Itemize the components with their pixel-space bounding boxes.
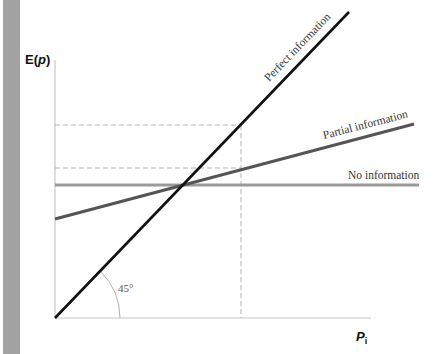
x-axis-label: Pi xyxy=(356,329,367,346)
perfect-information-line xyxy=(55,12,349,318)
y-axis-label: E(p) xyxy=(25,52,50,67)
angle-arc xyxy=(101,272,120,318)
angle-label: 45° xyxy=(118,282,133,294)
no-information-label: No information xyxy=(348,169,419,181)
perfect-information-label: Perfect information xyxy=(262,10,333,83)
information-expectation-diagram: Perfect information Partial information … xyxy=(0,0,442,354)
